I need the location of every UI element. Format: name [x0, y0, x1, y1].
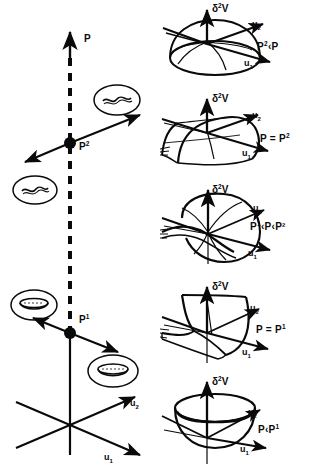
dome-condition-label: P2‹P — [257, 41, 279, 52]
surface-row-ridge: δ2V u2 u1 P = P2 — [160, 93, 322, 185]
surface-row-trough: δ2V u2 u1 P = P1 — [160, 279, 322, 371]
ridge-u2-label: u2 — [252, 110, 261, 120]
bowl-delta2v-label: δ2V — [212, 376, 228, 387]
ridge-condition-label: P = P2 — [260, 133, 290, 144]
left-panel-bifurcation-axis: P P2 P1 u2 u1 — [0, 0, 160, 472]
surface-row-dome: δ2V u2 u1 P2‹P — [160, 0, 322, 92]
stability-bifurcation-figure: P P2 P1 u2 u1 — [0, 0, 322, 472]
p2-bifurcation-dot — [64, 137, 76, 149]
p2-point-label: P2 — [79, 142, 89, 152]
bowl-u2-label: u2 — [248, 407, 257, 417]
trough-delta2v-label: δ2V — [212, 281, 228, 292]
bottom-coordinate-axes — [16, 397, 140, 455]
ridge-u1-label: u1 — [242, 148, 251, 158]
right-panel-surfaces: δ2V u2 u1 P2‹P — [160, 0, 322, 472]
saddle-delta2v-label: δ2V — [212, 184, 228, 195]
p2-branch-arrows — [25, 115, 140, 162]
inset-bowl-upper-left — [11, 290, 57, 320]
trough-condition-label: P = P1 — [256, 324, 286, 335]
trough-u1-label: u1 — [242, 347, 251, 357]
ridge-surface-graphics — [160, 93, 322, 185]
inset-bowl-lower-right — [88, 355, 138, 387]
saddle-condition-label: P1‹P‹P² — [250, 221, 286, 232]
bowl-surface-graphics — [160, 372, 322, 472]
dome-u1-label: u1 — [244, 58, 253, 68]
saddle-u1-label: u1 — [248, 248, 257, 258]
p1-point-label: P1 — [79, 315, 89, 325]
surface-row-bowl: δ2V u2 u1 P‹P1 — [160, 372, 322, 472]
dome-u2-label: u2 — [252, 19, 261, 29]
left-panel-u1-label: u1 — [104, 452, 113, 462]
bowl-u1-label: u1 — [240, 444, 249, 454]
saddle-surface-graphics — [160, 186, 322, 278]
trough-u2-label: u2 — [250, 303, 259, 313]
left-panel-u2-label: u2 — [130, 398, 139, 408]
inset-saddle-upper-right — [94, 85, 140, 115]
saddle-u2-label: u2 — [253, 203, 262, 213]
p-axis-label: P — [84, 34, 91, 44]
dome-surface-graphics — [160, 0, 322, 92]
dome-delta2v-label: δ2V — [212, 3, 228, 14]
surface-row-saddle: δ2V u2 u1 P1‹P‹P² — [160, 186, 322, 278]
inset-saddle-left — [13, 176, 57, 204]
ridge-delta2v-label: δ2V — [212, 93, 228, 104]
p1-bifurcation-dot — [64, 327, 76, 339]
trough-surface-graphics — [160, 279, 322, 371]
bowl-condition-label: P‹P1 — [258, 424, 280, 435]
